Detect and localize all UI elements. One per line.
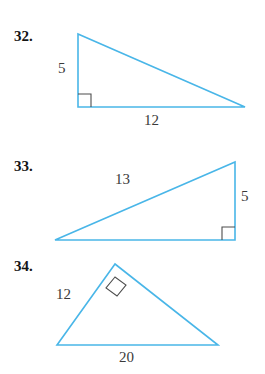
base-label-34: 20 <box>119 349 134 366</box>
right-angle-marker-34 <box>106 277 126 296</box>
figure-triangle-34 <box>0 0 265 374</box>
worksheet-page: 32. 5 12 33. 13 5 34. 12 20 <box>0 0 265 374</box>
triangle-outline-34 <box>57 264 218 345</box>
leg-label-34-left: 12 <box>56 286 71 303</box>
